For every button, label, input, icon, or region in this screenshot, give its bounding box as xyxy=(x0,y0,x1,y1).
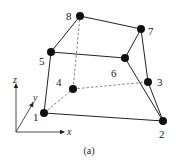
node-label-3: 3 xyxy=(157,76,163,88)
node-1 xyxy=(40,109,48,117)
coordinate-axes xyxy=(16,84,64,132)
edge-1-4 xyxy=(44,89,73,113)
edge-7-3 xyxy=(141,29,148,82)
node-label-7: 7 xyxy=(148,25,154,37)
edge-4-8 xyxy=(73,16,80,89)
hexahedral-element-diagram: 1 2 3 4 5 6 7 8 x y z (a) xyxy=(0,0,179,160)
node-label-1: 1 xyxy=(33,111,39,123)
node-4 xyxy=(69,85,77,93)
y-axis-arrow xyxy=(16,103,33,132)
x-axis-label: x xyxy=(66,126,72,137)
node-2 xyxy=(159,117,167,125)
node-3 xyxy=(144,78,152,86)
edge-4-3 xyxy=(73,82,148,89)
z-axis-label: z xyxy=(12,74,17,85)
hidden-edges xyxy=(44,16,148,113)
figure-caption: (a) xyxy=(83,145,94,157)
node-6 xyxy=(121,54,129,62)
edge-6-2 xyxy=(125,58,163,121)
node-label-5: 5 xyxy=(39,55,45,67)
edge-5-6 xyxy=(51,52,125,58)
node-5 xyxy=(47,48,55,56)
edge-7-6 xyxy=(125,29,141,58)
node-7 xyxy=(137,25,145,33)
node-8 xyxy=(76,12,84,20)
node-label-8: 8 xyxy=(66,10,72,22)
node-label-2: 2 xyxy=(159,128,165,140)
y-axis-label: y xyxy=(32,92,38,103)
visible-edges xyxy=(44,16,163,121)
edge-1-5 xyxy=(44,52,51,113)
edge-8-7 xyxy=(80,16,141,29)
edge-1-2 xyxy=(44,113,163,121)
node-label-4: 4 xyxy=(56,76,62,88)
node-label-6: 6 xyxy=(111,67,117,79)
